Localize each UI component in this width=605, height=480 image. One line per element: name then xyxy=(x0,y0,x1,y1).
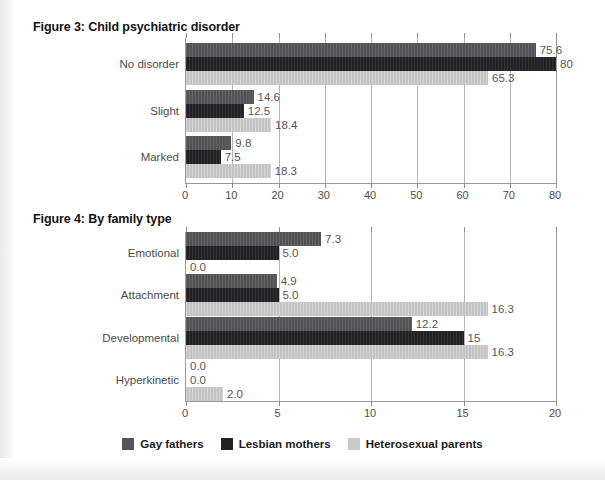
bar-value-label: 0.0 xyxy=(190,261,206,273)
bar-fill xyxy=(186,150,221,164)
bar: 16.3 xyxy=(186,345,488,359)
bar: 12.5 xyxy=(186,104,244,118)
x-axis-tick-label: 80 xyxy=(549,189,561,201)
axis-tick xyxy=(371,401,372,406)
bar-value-label: 7.3 xyxy=(325,233,341,245)
legend-label: Gay fathers xyxy=(140,438,203,450)
bar-fill xyxy=(186,317,412,331)
category-label: No disorder xyxy=(120,58,179,70)
figure-4-x-axis: 05101520 xyxy=(185,407,557,425)
bar: 65.3 xyxy=(186,71,488,85)
figure-3-title: Figure 3: Child psychiatric disorder xyxy=(33,20,240,34)
category-label: Hyperkinetic xyxy=(116,374,179,386)
x-axis-tick-label: 10 xyxy=(364,407,376,419)
bar-fill xyxy=(186,246,279,260)
bar-value-label: 18.3 xyxy=(275,165,297,177)
bar-value-label: 18.4 xyxy=(275,119,297,131)
axis-tick xyxy=(232,183,233,188)
axis-tick xyxy=(556,183,557,188)
bar-value-label: 7.5 xyxy=(225,151,241,163)
bar-fill xyxy=(186,104,244,118)
figure-4-chart: Emotional7.35.00.0Attachment4.95.016.3De… xyxy=(0,232,605,428)
legend-item: Gay fathers xyxy=(122,438,203,450)
bar-fill xyxy=(186,288,279,302)
bar: 7.3 xyxy=(186,232,321,246)
x-axis-tick-label: 10 xyxy=(225,189,237,201)
legend-swatch xyxy=(122,438,134,450)
x-axis-tick-label: 30 xyxy=(318,189,330,201)
figure-3-plot-area: No disorder75.68065.3Slight14.612.518.4M… xyxy=(185,38,557,184)
axis-tick xyxy=(325,33,326,38)
bar: 7.5 xyxy=(186,150,221,164)
bar-value-label: 0.0 xyxy=(190,374,206,386)
bar-fill xyxy=(186,43,536,57)
axis-tick xyxy=(556,33,557,38)
bar-fill xyxy=(186,274,277,288)
axis-tick xyxy=(371,183,372,188)
bar: 5.0 xyxy=(186,246,279,260)
bar-fill xyxy=(186,387,223,401)
axis-tick xyxy=(464,33,465,38)
bar-value-label: 2.0 xyxy=(227,388,243,400)
category-label: Slight xyxy=(150,105,179,117)
bar-group: No disorder75.68065.3 xyxy=(186,43,556,85)
axis-tick xyxy=(279,183,280,188)
bar-value-label: 75.6 xyxy=(540,44,562,56)
x-axis-tick-label: 20 xyxy=(271,189,283,201)
x-axis-tick-label: 20 xyxy=(549,407,561,419)
bar: 18.4 xyxy=(186,118,271,132)
axis-tick xyxy=(186,401,187,406)
legend-label: Lesbian mothers xyxy=(239,438,331,450)
bar-value-label: 5.0 xyxy=(283,289,299,301)
x-axis-tick-label: 50 xyxy=(410,189,422,201)
bar: 75.6 xyxy=(186,43,536,57)
legend-item: Lesbian mothers xyxy=(221,438,331,450)
bar-fill xyxy=(186,118,271,132)
figure-4-plot-area: Emotional7.35.00.0Attachment4.95.016.3De… xyxy=(185,232,557,402)
figure-3-x-axis: 01020304050607080 xyxy=(185,189,557,207)
axis-tick xyxy=(464,183,465,188)
bar-fill xyxy=(186,90,254,104)
figure-3-chart: No disorder75.68065.3Slight14.612.518.4M… xyxy=(0,38,605,206)
bar: 80 xyxy=(186,57,556,71)
axis-tick xyxy=(186,183,187,188)
bar-value-label: 9.8 xyxy=(235,137,251,149)
bar-fill xyxy=(186,164,271,178)
bar-group: Developmental12.21516.3 xyxy=(186,317,556,359)
bar-group: Emotional7.35.00.0 xyxy=(186,232,556,274)
bar-fill xyxy=(186,57,556,71)
bar-value-label: 80 xyxy=(560,58,573,70)
axis-tick xyxy=(556,227,557,232)
bar: 18.3 xyxy=(186,164,271,178)
bar-value-label: 12.2 xyxy=(416,318,438,330)
axis-tick xyxy=(417,183,418,188)
axis-tick xyxy=(464,401,465,406)
bar-group: Attachment4.95.016.3 xyxy=(186,274,556,316)
legend-item: Heterosexual parents xyxy=(348,438,483,450)
bar: 16.3 xyxy=(186,302,488,316)
scan-edge-bottom xyxy=(0,458,605,480)
bar-value-label: 15 xyxy=(468,332,481,344)
axis-tick xyxy=(417,33,418,38)
x-axis-tick-label: 40 xyxy=(364,189,376,201)
axis-tick xyxy=(371,33,372,38)
bar-value-label: 0.0 xyxy=(190,360,206,372)
x-axis-tick-label: 60 xyxy=(456,189,468,201)
x-axis-tick-label: 0 xyxy=(182,189,188,201)
axis-tick xyxy=(510,33,511,38)
axis-tick xyxy=(325,183,326,188)
bar-group: Hyperkinetic0.00.02.0 xyxy=(186,359,556,401)
category-label: Attachment xyxy=(121,289,179,301)
bar-value-label: 4.9 xyxy=(281,275,297,287)
bar-value-label: 16.3 xyxy=(492,303,514,315)
bar: 15 xyxy=(186,331,464,345)
bar-value-label: 65.3 xyxy=(492,72,514,84)
legend-swatch xyxy=(221,438,233,450)
bar: 4.9 xyxy=(186,274,277,288)
axis-tick xyxy=(232,33,233,38)
x-axis-tick-label: 0 xyxy=(182,407,188,419)
bar: 2.0 xyxy=(186,387,223,401)
axis-tick xyxy=(510,183,511,188)
figure-4-title: Figure 4: By family type xyxy=(33,212,172,226)
bar-fill xyxy=(186,331,464,345)
